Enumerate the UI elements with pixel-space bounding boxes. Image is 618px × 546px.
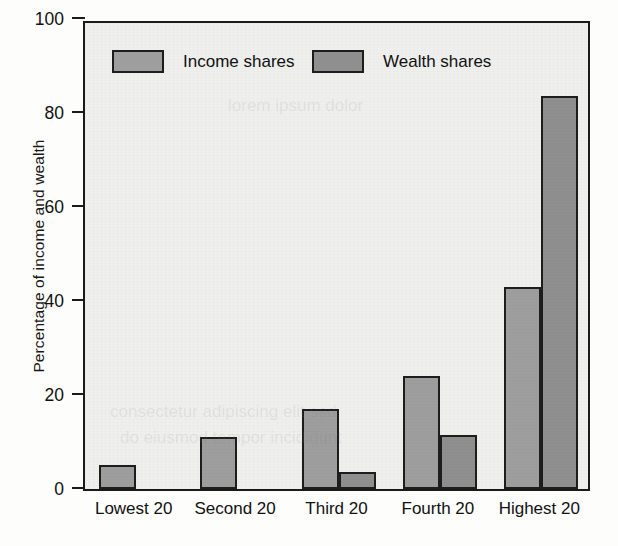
bar-highest-20-wealth-shares	[541, 96, 578, 489]
bar-third-20-wealth-shares	[339, 472, 376, 489]
legend-label-wealth: Wealth shares	[383, 52, 491, 72]
x-axis-tick-label-fourth-20: Fourth 20	[387, 497, 488, 521]
y-axis-tick-label: 60	[45, 196, 64, 218]
x-axis-tick-label-third-20: Third 20	[286, 497, 387, 521]
bar-third-20-income-shares	[302, 409, 339, 489]
y-axis-title: Percentage of income and wealth	[26, 21, 52, 491]
y-axis-tick-label: 80	[45, 102, 64, 124]
bar-highest-20-income-shares	[504, 287, 541, 489]
legend-label-income: Income shares	[183, 52, 295, 72]
y-axis-tick: 100	[72, 17, 85, 19]
y-axis-tick: 0	[72, 487, 85, 489]
y-axis-tick-label: 0	[54, 478, 64, 500]
y-axis-tick-label: 100	[35, 8, 64, 30]
y-axis-tick: 80	[72, 111, 85, 113]
legend-swatch-wealth	[312, 50, 364, 73]
bar-fourth-20-income-shares	[403, 376, 440, 489]
bar-chart: Percentage of income and wealth 02040608…	[0, 0, 618, 546]
x-axis-tick-label-lowest-20: Lowest 20	[83, 497, 184, 521]
x-axis-tick-label-highest-20: Highest 20	[489, 497, 590, 521]
x-axis-tick-label-second-20: Second 20	[184, 497, 285, 521]
y-axis-tick: 20	[72, 393, 85, 395]
plot-area: 020406080100	[83, 21, 590, 491]
y-axis-tick: 40	[72, 299, 85, 301]
y-axis-tick-label: 20	[45, 384, 64, 406]
bar-second-20-income-shares	[200, 437, 237, 489]
legend-item-wealth[interactable]: Wealth shares	[312, 50, 491, 73]
bar-lowest-20-income-shares	[99, 465, 136, 489]
legend-swatch-income	[112, 50, 164, 73]
y-axis-tick-label: 40	[45, 290, 64, 312]
legend-item-income[interactable]: Income shares	[112, 50, 295, 73]
y-axis-tick: 60	[72, 205, 85, 207]
bar-fourth-20-wealth-shares	[440, 435, 477, 489]
